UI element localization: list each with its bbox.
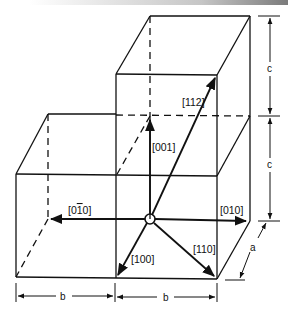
dimension-c: c c <box>258 16 280 221</box>
middle-plane <box>16 114 250 219</box>
vector-010 <box>155 219 246 221</box>
label-110: [110] <box>193 243 216 255</box>
label-100: [100] <box>131 253 154 265</box>
unit-cell-diagram: [112] [001] [010] [010] [100] [110] c c … <box>0 0 288 314</box>
vector-100 <box>118 223 147 275</box>
label-001: [001] <box>152 141 175 153</box>
label-010: [010] <box>220 204 243 216</box>
label-112: [112] <box>182 96 205 108</box>
dimension-b: b b <box>16 283 217 303</box>
dim-b-right: b <box>163 292 169 303</box>
label-0m10: [010] <box>68 204 91 216</box>
dimension-a: a <box>225 223 266 280</box>
dim-c-lower: c <box>267 159 272 170</box>
upper-unit-cell <box>116 16 250 221</box>
dim-a: a <box>250 242 256 253</box>
dim-b-left: b <box>60 291 66 302</box>
dim-c-upper: c <box>267 63 272 74</box>
